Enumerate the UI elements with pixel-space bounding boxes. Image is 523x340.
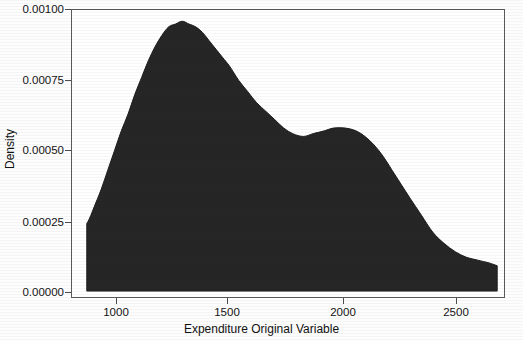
- x-axis-title: Expenditure Original Variable: [0, 322, 523, 336]
- y-tick-label: 0.00075: [22, 73, 71, 87]
- y-tick-label: 0.00100: [22, 2, 71, 16]
- density-curve: [72, 10, 504, 297]
- x-tick-label: 2000: [330, 306, 356, 318]
- y-tick-label: 0.00000: [22, 285, 71, 299]
- y-axis-title: Density: [3, 129, 17, 169]
- y-axis-title-wrap: Density: [2, 0, 18, 298]
- x-tick-mark: [456, 298, 457, 304]
- density-plot-screenshot: 0.00100 0.00075 0.00050 0.00025 0.00000 …: [0, 0, 523, 340]
- y-tick-label: 0.00050: [22, 143, 71, 157]
- x-tick-mark: [116, 298, 117, 304]
- plot-area: [71, 9, 505, 298]
- x-tick-label: 1000: [103, 306, 129, 318]
- x-tick-mark: [343, 298, 344, 304]
- x-tick-label: 1500: [214, 306, 240, 318]
- density-area-path: [87, 21, 497, 291]
- x-tick-mark: [227, 298, 228, 304]
- y-tick-label: 0.00025: [22, 215, 71, 229]
- x-tick-label: 2500: [443, 306, 469, 318]
